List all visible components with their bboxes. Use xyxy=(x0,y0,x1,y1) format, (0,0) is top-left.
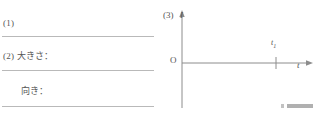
scan-artifact-bar xyxy=(287,104,313,108)
answer-label-1: (1) xyxy=(3,18,14,29)
scan-artifact-dot xyxy=(281,104,284,108)
x-axis-label: t xyxy=(297,60,300,70)
answer-rule-3 xyxy=(2,106,154,107)
answer-rule-2 xyxy=(2,70,154,71)
graph-column: (3) I t O t1 xyxy=(158,0,320,117)
x-axis-arrowhead xyxy=(306,60,313,65)
origin-label: O xyxy=(170,55,177,65)
answer-column: (1) (2) 大きさ： 向き： xyxy=(0,0,158,117)
y-axis-label: I xyxy=(180,10,183,20)
tick-label-subscript: 1 xyxy=(273,43,276,49)
worksheet-page: (1) (2) 大きさ： 向き： (3) I t O t1 xyxy=(0,0,320,117)
tick-label-t1: t1 xyxy=(271,38,276,49)
answer-label-3-direction: 向き： xyxy=(21,86,49,97)
answer-rule-1 xyxy=(2,36,154,37)
answer-label-2-magnitude: (2) 大きさ： xyxy=(3,51,53,62)
